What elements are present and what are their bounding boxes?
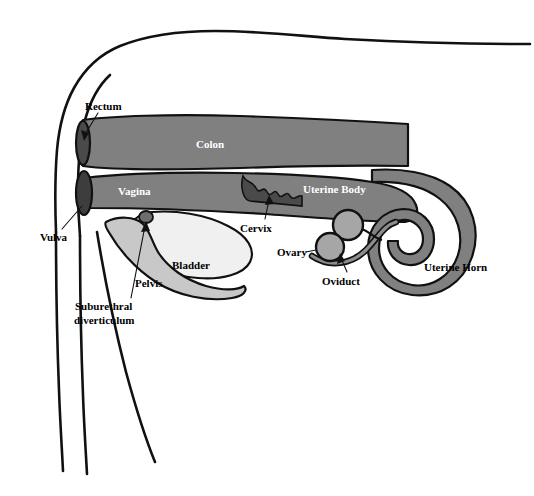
label-uterine-body: Uterine Body: [303, 183, 366, 195]
anatomy-illustration: Rectum Colon Vagina Vulva Cervix Uterine…: [0, 0, 534, 496]
label-pelvis: Pelvis: [135, 277, 163, 289]
label-suburethral-diverticulum-line2: diverticulum: [74, 314, 135, 326]
label-uterine-horn: Uterine Horn: [424, 261, 487, 273]
label-ovary: Ovary: [277, 246, 307, 258]
label-rectum: Rectum: [85, 100, 122, 112]
anatomy-diagram: Rectum Colon Vagina Vulva Cervix Uterine…: [0, 0, 534, 496]
label-bladder: Bladder: [172, 259, 210, 271]
label-vulva: Vulva: [40, 231, 68, 243]
label-vagina: Vagina: [118, 185, 151, 197]
colon-shape: [77, 115, 408, 169]
vaginal-opening: [76, 171, 92, 215]
label-suburethral-diverticulum-line1: Suburethral: [75, 300, 132, 312]
label-oviduct: Oviduct: [322, 275, 360, 287]
leader-ovary: [306, 250, 316, 252]
rectum-opening: [76, 121, 90, 165]
leg-outline-middle: [80, 236, 87, 474]
leg-outline-left: [56, 232, 63, 471]
colon-group: [76, 115, 408, 169]
label-cervix: Cervix: [240, 222, 272, 234]
label-colon: Colon: [196, 138, 224, 150]
